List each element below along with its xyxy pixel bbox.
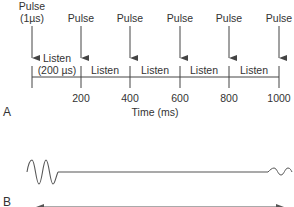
pulse-label-1: Pulse xyxy=(19,0,45,12)
pulse-label-5: Pulse xyxy=(216,12,242,24)
panel-a: Pulse (1µs) Pulse Pulse Pulse Pulse Puls… xyxy=(3,0,292,119)
listen-duration-label: (200 µs) xyxy=(38,64,77,76)
listen-label-2: Listen xyxy=(91,64,119,76)
pulse-label-3: Pulse xyxy=(117,12,143,24)
tick-label-600: 600 xyxy=(171,92,189,104)
tick-label-400: 400 xyxy=(121,92,139,104)
pulse-label-2: Pulse xyxy=(68,12,94,24)
tick-label-200: 200 xyxy=(72,92,90,104)
tick-label-800: 800 xyxy=(220,92,238,104)
pulse-duration-label: (1µs) xyxy=(20,12,44,24)
listen-label-5: Listen xyxy=(240,64,268,76)
axis-title: Time (ms) xyxy=(132,106,179,118)
panel-label-b: B xyxy=(3,195,11,207)
listen-label-3: Listen xyxy=(141,64,169,76)
pulse-label-6: Pulse xyxy=(266,12,292,24)
pulse-listen-diagram: Pulse (1µs) Pulse Pulse Pulse Pulse Puls… xyxy=(0,0,294,207)
echo-waveform xyxy=(268,168,292,175)
panel-b: B xyxy=(3,160,292,207)
arrow-right-icon xyxy=(276,204,284,207)
listen-label-1: Listen xyxy=(43,52,71,64)
tick-label-1000: 1000 xyxy=(267,92,291,104)
arrow-left-icon xyxy=(36,204,44,207)
pulse-label-4: Pulse xyxy=(167,12,193,24)
transmitted-pulse-waveform xyxy=(27,160,58,184)
listen-label-4: Listen xyxy=(190,64,218,76)
panel-label-a: A xyxy=(3,105,11,119)
